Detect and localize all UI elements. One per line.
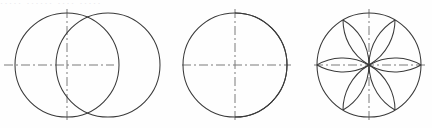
- rosette-arc-6: [343, 58, 421, 110]
- rosette-arc-3: [317, 20, 395, 72]
- figure-1-group: [4, 9, 160, 122]
- figures-container: [0, 0, 432, 128]
- rosette-arc-5: [317, 58, 395, 110]
- rosette-arc-2: [343, 20, 421, 72]
- figure-3-group: [314, 9, 426, 122]
- geometric-figures-svg: [0, 0, 432, 128]
- figure-2-group: [182, 9, 291, 122]
- drawing-page: ····· ······ ···· ·····: [0, 0, 432, 128]
